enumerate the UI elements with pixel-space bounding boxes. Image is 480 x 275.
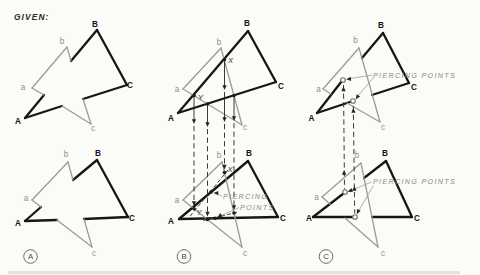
- point-label: X: [226, 165, 233, 174]
- vertex-label-lower: b: [60, 37, 65, 46]
- vertex-label-upper: C: [280, 214, 286, 223]
- piercing-point-ring: [343, 190, 348, 195]
- bold-edge-line: [25, 220, 57, 221]
- vertex-label-lower: a: [21, 83, 26, 92]
- vertex-label-upper: A: [306, 214, 312, 223]
- vertex-label-lower: a: [175, 196, 180, 205]
- vertex-label-upper: A: [309, 114, 315, 123]
- vertex-label-upper: B: [378, 21, 384, 30]
- vertex-label-lower: a: [316, 85, 321, 94]
- vertex-label-lower: c: [243, 249, 247, 258]
- vertex-label-lower: c: [381, 249, 385, 258]
- vertex-label-lower: a: [24, 194, 29, 203]
- vertex-label-lower: b: [355, 151, 360, 160]
- vertex-label-upper: C: [129, 214, 135, 223]
- vertex-label-upper: B: [95, 149, 101, 158]
- intersection-dot: [232, 211, 236, 215]
- intersection-dot: [206, 218, 210, 222]
- cropped-next-figure-band: [8, 271, 460, 274]
- intersection-dot: [223, 58, 227, 62]
- figure-page: GIVEN:BCAbacBCAbacABCAbacXYBCAbacXYPIERC…: [0, 0, 480, 275]
- vertex-label-upper: C: [278, 82, 284, 91]
- vertex-label-upper: B: [92, 20, 98, 29]
- intersection-dot: [192, 207, 196, 211]
- vertex-label-upper: A: [15, 117, 21, 126]
- piercing-point-ring: [341, 78, 346, 83]
- piercing-points-callout: PIERCING: [223, 192, 268, 201]
- intersection-dot: [213, 216, 217, 220]
- vertex-label-lower: a: [175, 85, 180, 94]
- piercing-points-callout: PIERCING POINTS: [373, 71, 456, 80]
- vertex-label-lower: c: [92, 249, 96, 258]
- vertex-label-lower: c: [381, 123, 385, 132]
- given-label: GIVEN:: [14, 12, 49, 22]
- point-label: X: [227, 56, 234, 65]
- vertex-label-lower: b: [217, 151, 222, 160]
- vertex-label-lower: c: [91, 124, 95, 133]
- vertex-label-upper: A: [168, 217, 174, 226]
- vertex-label-upper: C: [127, 81, 133, 90]
- piercing-point-ring: [351, 99, 356, 104]
- vertex-label-lower: b: [353, 36, 358, 45]
- intersection-dot: [232, 94, 236, 98]
- piercing-points-callout: PIERCING POINTS: [373, 177, 456, 186]
- vertex-label-lower: b: [217, 38, 222, 47]
- piercing-points-callout: POINTS: [240, 203, 275, 212]
- intersection-dot: [192, 94, 196, 98]
- figure-canvas: GIVEN:BCAbacBCAbacABCAbacXYBCAbacXYPIERC…: [0, 0, 480, 275]
- vertex-label-upper: C: [411, 83, 417, 92]
- view-badge-letter-b: B: [181, 252, 186, 261]
- vertex-label-lower: b: [64, 150, 69, 159]
- vertex-label-upper: C: [414, 214, 420, 223]
- view-badge-letter-a: A: [28, 252, 34, 261]
- vertex-label-upper: B: [244, 19, 250, 28]
- intersection-dot: [223, 171, 227, 175]
- vertex-label-upper: A: [168, 114, 174, 123]
- view-badge-letter-c: C: [323, 252, 329, 261]
- vertex-label-lower: c: [243, 123, 247, 132]
- piercing-point-ring: [353, 215, 358, 220]
- vertex-label-lower: a: [314, 193, 319, 202]
- vertex-label-upper: A: [15, 219, 21, 228]
- intersection-dot: [209, 190, 213, 194]
- vertex-label-upper: B: [382, 149, 388, 158]
- intersection-dot: [206, 102, 210, 106]
- vertex-label-upper: B: [246, 149, 252, 158]
